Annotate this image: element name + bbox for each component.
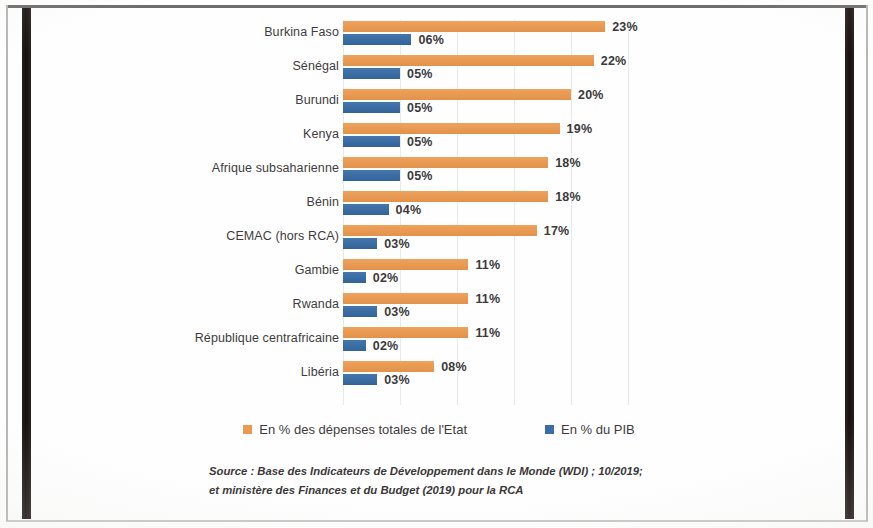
bar-gdp-share: 03% [343,238,377,249]
bar-expenditure-share: 19% [343,123,560,134]
binding-edge-left [22,8,31,519]
category-label: République centrafricaine [79,331,339,345]
bar-group: 23%06% [343,21,605,45]
bar-expenditure-share: 11% [343,293,468,304]
bar-row: Rwanda11%03% [35,290,843,324]
bar-chart: Burkina Faso23%06%Sénégal22%05%Burundi20… [35,10,843,515]
bar-group: 18%05% [343,157,548,181]
bar-gdp-share: 05% [343,68,400,79]
bar-group: 20%05% [343,89,571,113]
bar-group: 08%03% [343,361,434,385]
bar-group: 11%02% [343,327,468,351]
bar-row: Sénégal22%05% [35,52,843,86]
bar-gdp-share: 02% [343,340,366,351]
bar-value-label: 05% [407,169,433,183]
source-line: et ministère des Finances et du Budget (… [209,481,769,500]
bar-gdp-share: 02% [343,272,366,283]
bar-value-label: 23% [612,20,638,34]
bar-expenditure-share: 18% [343,191,548,202]
bar-expenditure-share: 11% [343,259,468,270]
page-border-left [6,5,8,521]
bar-value-label: 17% [544,224,570,238]
bar-value-label: 20% [578,88,604,102]
category-label: Kenya [79,127,339,141]
category-label: Rwanda [79,297,339,311]
bar-group: 11%03% [343,293,468,317]
category-label: Sénégal [79,59,339,73]
bar-value-label: 05% [407,67,433,81]
category-label: CEMAC (hors RCA) [79,229,339,243]
bar-value-label: 06% [418,33,444,47]
bar-group: 17%03% [343,225,537,249]
bar-value-label: 11% [475,258,500,272]
bar-row: Libéria08%03% [35,358,843,392]
legend-item[interactable]: En % du PIB [545,422,635,437]
category-label: Libéria [79,365,339,379]
bar-value-label: 08% [441,360,467,374]
source-note: Source : Base des Indicateurs de Dévelop… [209,462,769,499]
bar-expenditure-share: 23% [343,21,605,32]
bar-row: République centrafricaine11%02% [35,324,843,358]
bar-value-label: 02% [373,271,399,285]
chart-legend: En % des dépenses totales de l'EtatEn % … [35,422,843,437]
bar-value-label: 05% [407,101,433,115]
bar-gdp-share: 03% [343,306,377,317]
bar-expenditure-share: 18% [343,157,548,168]
scanned-page: Burkina Faso23%06%Sénégal22%05%Burundi20… [0,0,873,528]
bar-value-label: 04% [396,203,422,217]
page-border-bottom [6,520,868,522]
bar-value-label: 03% [384,305,410,319]
bar-value-label: 18% [555,190,581,204]
binding-edge-right [845,8,854,519]
bar-value-label: 19% [567,122,593,136]
bar-row: Kenya19%05% [35,120,843,154]
legend-item[interactable]: En % des dépenses totales de l'Etat [243,422,467,437]
page-border-top [6,5,868,8]
bar-value-label: 22% [601,54,627,68]
legend-label: En % du PIB [561,422,635,437]
bar-value-label: 05% [407,135,433,149]
bar-row: Burkina Faso23%06% [35,18,843,52]
plot-area: Burkina Faso23%06%Sénégal22%05%Burundi20… [35,18,843,413]
bar-gdp-share: 04% [343,204,389,215]
bar-group: 18%04% [343,191,548,215]
page-border-right [866,5,868,521]
bar-expenditure-share: 17% [343,225,537,236]
bar-group: 22%05% [343,55,594,79]
bar-value-label: 11% [475,326,500,340]
bar-row: CEMAC (hors RCA)17%03% [35,222,843,256]
bar-value-label: 18% [555,156,581,170]
bar-gdp-share: 03% [343,374,377,385]
legend-label: En % des dépenses totales de l'Etat [259,422,467,437]
category-label: Burkina Faso [79,25,339,39]
bar-row: Gambie11%02% [35,256,843,290]
bar-row: Bénin18%04% [35,188,843,222]
bar-rows: Burkina Faso23%06%Sénégal22%05%Burundi20… [35,18,843,392]
bar-row: Burundi20%05% [35,86,843,120]
bar-group: 19%05% [343,123,560,147]
category-label: Gambie [79,263,339,277]
bar-value-label: 03% [384,373,410,387]
category-label: Burundi [79,93,339,107]
bar-gdp-share: 05% [343,102,400,113]
bar-expenditure-share: 08% [343,361,434,372]
bar-value-label: 02% [373,339,399,353]
bar-value-label: 11% [475,292,500,306]
bar-gdp-share: 05% [343,136,400,147]
bar-group: 11%02% [343,259,468,283]
legend-swatch-orange-icon [243,425,252,434]
legend-swatch-blue-icon [545,425,554,434]
bar-expenditure-share: 22% [343,55,594,66]
bar-expenditure-share: 20% [343,89,571,100]
bar-value-label: 03% [384,237,410,251]
bar-row: Afrique subsaharienne18%05% [35,154,843,188]
bar-gdp-share: 06% [343,34,411,45]
bar-expenditure-share: 11% [343,327,468,338]
source-line: Source : Base des Indicateurs de Dévelop… [209,462,769,481]
category-label: Bénin [79,195,339,209]
bar-gdp-share: 05% [343,170,400,181]
category-label: Afrique subsaharienne [79,161,339,175]
